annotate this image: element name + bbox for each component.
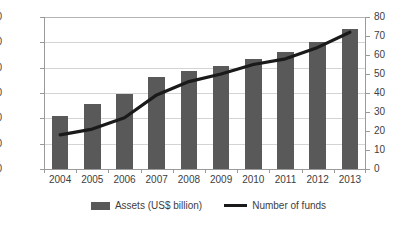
y-axis-right-tick-label: 50: [374, 69, 414, 79]
y-axis-left-tick-label: 800: [0, 63, 2, 73]
x-axis-tick-label: 2013: [330, 175, 370, 185]
y-axis-left-tick-label: 0: [0, 164, 2, 174]
y-axis-right-tick: [366, 55, 370, 56]
line-swatch-icon: [224, 204, 247, 207]
y-axis-right-tick: [366, 93, 370, 94]
x-axis-tick: [141, 169, 142, 173]
y-axis-right-tick-label: 0: [374, 164, 414, 174]
y-axis-right-tick: [366, 169, 370, 170]
y-axis-right-tick: [366, 150, 370, 151]
x-axis-tick: [302, 169, 303, 173]
y-axis-right-tick: [366, 36, 370, 37]
legend-item-label: Number of funds: [252, 200, 326, 211]
bar-swatch-icon: [91, 202, 110, 210]
y-axis-right-tick: [366, 17, 370, 18]
x-axis-tick: [44, 169, 45, 173]
legend-item-label: Assets (US$ billion): [115, 200, 202, 211]
chart-legend: Assets (US$ billion) Number of funds: [0, 200, 417, 211]
x-axis-tick: [108, 169, 109, 173]
y-axis-right-tick-label: 60: [374, 50, 414, 60]
y-axis-right-tick-label: 30: [374, 107, 414, 117]
x-axis-tick: [173, 169, 174, 173]
legend-item-number-of-funds[interactable]: Number of funds: [224, 200, 326, 211]
x-axis-tick: [365, 169, 366, 173]
y-axis-left-tick-label: 400: [0, 113, 2, 123]
y-axis-right-tick: [366, 112, 370, 113]
y-axis-left-tick-label: 200: [0, 139, 2, 149]
y-axis-right-tick-label: 80: [374, 12, 414, 22]
y-axis-right-tick-label: 40: [374, 88, 414, 98]
y-axis-left-tick-label: 600: [0, 88, 2, 98]
y-axis-right-tick-label: 10: [374, 145, 414, 155]
x-axis-tick: [237, 169, 238, 173]
y-axis-left-tick-label: 1000: [0, 37, 2, 47]
x-axis-tick: [76, 169, 77, 173]
chart-container: 020040060080010001200 01020304050607080 …: [0, 0, 417, 226]
legend-item-assets[interactable]: Assets (US$ billion): [91, 200, 202, 211]
y-axis-right-tick-label: 70: [374, 31, 414, 41]
y-axis-left-tick-label: 1200: [0, 12, 2, 22]
x-axis-tick: [334, 169, 335, 173]
y-axis-right-tick: [366, 131, 370, 132]
line-series-number-of-funds: [44, 17, 366, 169]
y-axis-right-tick: [366, 74, 370, 75]
y-axis-right-tick-label: 20: [374, 126, 414, 136]
plot-area: [44, 17, 366, 169]
x-axis-tick: [205, 169, 206, 173]
x-axis-tick: [269, 169, 270, 173]
